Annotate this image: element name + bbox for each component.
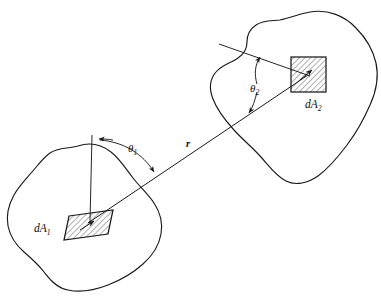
figure-container: dA1 dA2 θ1 θ2 r <box>0 0 381 304</box>
surface-patch-2 <box>291 57 326 92</box>
label-theta-2-subscript: 2 <box>255 88 259 97</box>
label-area-2-main: dA <box>305 98 319 110</box>
label-area-1-subscript: 1 <box>47 228 51 237</box>
label-area-2-subscript: 2 <box>318 104 322 113</box>
label-area-1-main: dA <box>34 222 48 234</box>
radiation-geometry-diagram: dA1 dA2 θ1 θ2 r <box>0 0 381 304</box>
label-theta-1-subscript: 1 <box>133 148 137 157</box>
